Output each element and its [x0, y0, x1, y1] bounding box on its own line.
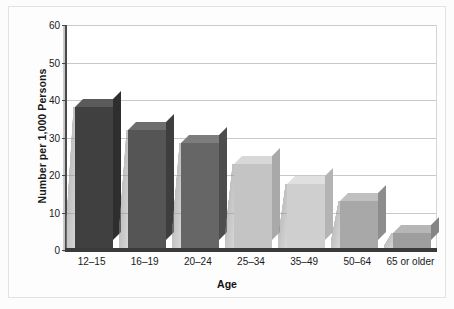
bar-front-face — [75, 107, 113, 248]
y-axis-tick-label: 40 — [49, 95, 60, 106]
bar-shadow — [278, 184, 287, 248]
y-axis-tick-label: 20 — [49, 170, 60, 181]
bar[interactable] — [75, 107, 113, 248]
bar[interactable] — [287, 184, 325, 248]
bar-side-face — [378, 185, 386, 240]
bar-front-face — [128, 130, 166, 248]
y-axis-tick-label: 30 — [49, 132, 60, 143]
y-axis-tick-mark — [62, 100, 67, 101]
bar[interactable] — [181, 143, 219, 248]
x-axis-title: Age — [0, 278, 454, 290]
y-axis-title: Number per 1,000 Persons — [36, 41, 48, 231]
bar-shadow — [119, 130, 128, 248]
bar-shadow — [225, 164, 234, 248]
gridline — [67, 63, 436, 64]
bar[interactable] — [393, 233, 431, 248]
bar-front-face — [287, 184, 325, 248]
bar[interactable] — [340, 201, 378, 248]
x-axis-tick-label: 65 or older — [365, 256, 454, 267]
bar-front-face — [340, 201, 378, 248]
bar-front-face — [234, 164, 272, 248]
gridline — [67, 25, 436, 26]
bar-shadow — [172, 143, 181, 248]
bar-shadow — [384, 233, 393, 248]
chart-figure: Number per 1,000 Persons 0102030405060 A… — [0, 0, 454, 309]
y-axis-tick-label: 0 — [54, 245, 60, 256]
bar[interactable] — [128, 130, 166, 248]
bar[interactable] — [234, 164, 272, 248]
y-axis-tick-label: 10 — [49, 207, 60, 218]
bar-front-face — [181, 143, 219, 248]
plot-area: 0102030405060 — [65, 25, 437, 250]
y-axis-tick-mark — [62, 63, 67, 64]
x-axis-baseline — [65, 248, 437, 252]
bar-shadow — [331, 201, 340, 248]
gridline — [67, 100, 436, 101]
y-axis-tick-label: 50 — [49, 57, 60, 68]
bar-front-face — [393, 233, 431, 248]
y-axis-tick-mark — [62, 25, 67, 26]
y-axis-tick-label: 60 — [49, 20, 60, 31]
bar-shadow — [66, 107, 75, 248]
